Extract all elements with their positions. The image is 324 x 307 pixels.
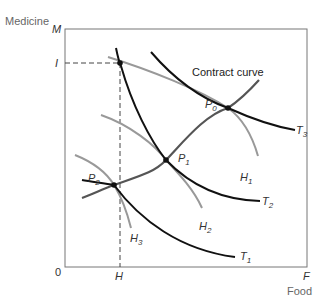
point-p1 xyxy=(163,157,169,163)
t1-label: T1 xyxy=(240,250,251,265)
contract-curve-label: Contract curve xyxy=(192,66,264,78)
box-frame xyxy=(65,29,307,267)
x-axis-label: Food xyxy=(287,285,312,297)
x-tick-label: H xyxy=(115,270,123,282)
point-p0 xyxy=(225,105,231,111)
y-axis-symbol: M xyxy=(52,23,62,35)
edgeworth-box-diagram: Medicine M I 0 H F Food Contract curve P… xyxy=(0,0,324,307)
h3-label: H3 xyxy=(130,232,143,247)
t2-label: T2 xyxy=(262,195,274,210)
isoquant-h3 xyxy=(75,155,131,228)
contract-curve xyxy=(82,80,259,198)
x-axis-symbol: F xyxy=(303,270,311,282)
t3-label: T3 xyxy=(296,124,308,139)
origin-label: 0 xyxy=(55,266,61,278)
point-i-h xyxy=(117,60,123,66)
y-axis-label: Medicine xyxy=(5,15,49,27)
y-tick-label: I xyxy=(55,57,58,69)
h1-label: H1 xyxy=(240,171,252,186)
p2-label: P2 xyxy=(88,172,100,187)
point-p2 xyxy=(111,182,117,188)
h2-label: H2 xyxy=(199,220,212,235)
isoquant-t3 xyxy=(151,52,295,130)
p1-label: P1 xyxy=(178,152,190,167)
